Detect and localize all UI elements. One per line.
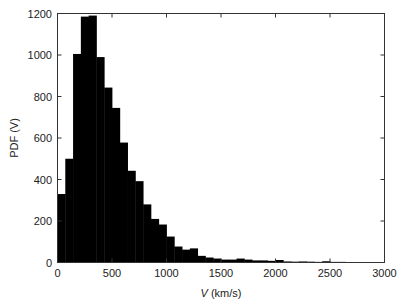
y-tick-label: 400 <box>34 174 52 186</box>
histogram-bar <box>151 219 159 263</box>
histogram-bar <box>190 248 198 262</box>
y-tick-label: 600 <box>34 132 52 144</box>
y-tick-label: 200 <box>34 215 52 227</box>
y-tick-label: 0 <box>46 257 52 269</box>
histogram-bar <box>143 204 151 262</box>
histogram-bar <box>128 171 136 263</box>
y-tick-label: 1000 <box>28 49 52 61</box>
histogram-bar <box>198 256 206 263</box>
histogram-bar <box>213 259 221 263</box>
histogram-bar <box>159 225 167 263</box>
x-tick-label: 2500 <box>318 267 342 279</box>
histogram-bar <box>135 181 143 262</box>
histogram-bar <box>167 237 175 263</box>
histogram-chart: 050010001500200025003000 020040060080010… <box>0 0 409 305</box>
histogram-bar <box>89 16 97 263</box>
histogram-bar <box>58 194 66 262</box>
histogram-bar <box>104 88 112 263</box>
histogram-bar <box>174 247 182 263</box>
x-tick-label: 500 <box>103 267 121 279</box>
histogram-bar <box>205 258 213 263</box>
x-tick-label: 2000 <box>263 267 287 279</box>
histogram-bar <box>112 108 120 263</box>
x-tick-label: 3000 <box>372 267 396 279</box>
histogram-bar <box>65 159 73 263</box>
y-tick-label: 800 <box>34 91 52 103</box>
histogram-bar <box>237 259 245 263</box>
histogram-bars <box>58 16 385 263</box>
x-tick-label: 0 <box>54 267 60 279</box>
histogram-bar <box>96 57 104 262</box>
histogram-bar <box>81 17 89 263</box>
histogram-bar <box>73 54 81 263</box>
histogram-bar <box>120 143 128 263</box>
histogram-bar <box>182 250 190 263</box>
x-tick-label: 1500 <box>209 267 233 279</box>
x-axis-label: V (km/s) <box>201 287 242 299</box>
y-axis-label: PDF (V) <box>8 118 20 158</box>
x-tick-label: 1000 <box>154 267 178 279</box>
y-tick-label: 1200 <box>28 8 52 20</box>
